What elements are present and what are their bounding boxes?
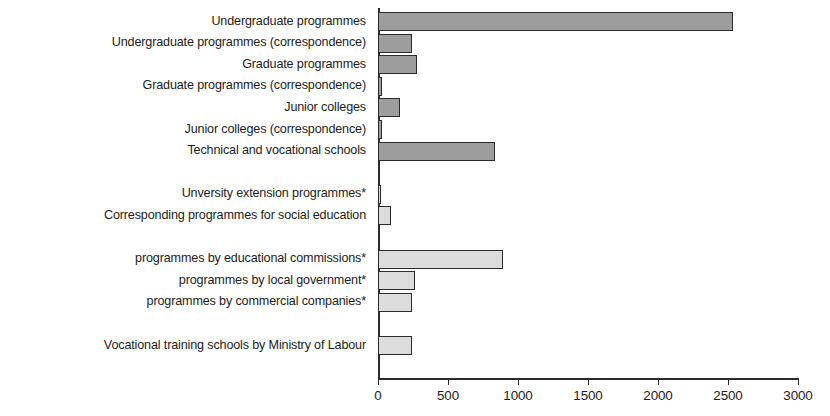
category-label: programmes by local government* bbox=[0, 273, 366, 287]
x-axis-tick bbox=[518, 378, 519, 385]
category-label: Undergraduate programmes bbox=[0, 14, 366, 28]
x-axis-tick bbox=[448, 378, 449, 385]
x-axis-tick-label: 1000 bbox=[486, 388, 550, 403]
x-axis-tick-label: 2500 bbox=[696, 388, 760, 403]
category-label: Vocational training schools by Ministry … bbox=[0, 338, 366, 352]
category-label: Undergraduate programmes (correspondence… bbox=[0, 35, 366, 49]
category-label: Technical and vocational schools bbox=[0, 143, 366, 157]
x-axis-tick bbox=[798, 378, 799, 385]
x-axis: 050010001500200025003000 bbox=[378, 8, 798, 378]
category-label: programmes by commercial companies* bbox=[0, 294, 366, 308]
x-axis-tick-label: 0 bbox=[346, 388, 410, 403]
x-axis-tick bbox=[728, 378, 729, 385]
category-label: Graduate programmes (correspondence) bbox=[0, 78, 366, 92]
category-axis-labels: Undergraduate programmesUndergraduate pr… bbox=[0, 8, 372, 378]
x-axis-tick-label: 1500 bbox=[556, 388, 620, 403]
category-label: Junior colleges (correspondence) bbox=[0, 122, 366, 136]
x-axis-tick-label: 2000 bbox=[626, 388, 690, 403]
x-axis-tick bbox=[588, 378, 589, 385]
category-label: Junior colleges bbox=[0, 100, 366, 114]
category-label: Unversity extension programmes* bbox=[0, 186, 366, 200]
x-axis-tick-label: 3000 bbox=[766, 388, 830, 403]
bar-chart: Undergraduate programmesUndergraduate pr… bbox=[0, 0, 830, 416]
x-axis-tick bbox=[378, 378, 379, 385]
category-label: Graduate programmes bbox=[0, 57, 366, 71]
category-label: programmes by educational commissions* bbox=[0, 251, 366, 265]
x-axis-tick bbox=[658, 378, 659, 385]
x-axis-tick-label: 500 bbox=[416, 388, 480, 403]
category-label: Corresponding programmes for social educ… bbox=[0, 208, 366, 222]
